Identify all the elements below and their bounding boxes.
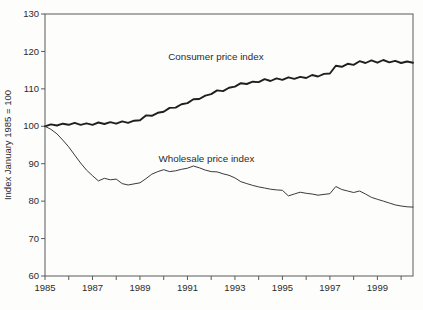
- y-tick-label: 110: [24, 83, 39, 94]
- chart: 6070809010011012013019851987198919911993…: [0, 0, 423, 310]
- x-tick-label: 1989: [129, 282, 150, 293]
- y-tick-label: 80: [28, 195, 39, 206]
- wholesale-price-line: [45, 126, 413, 207]
- y-tick-label: 90: [28, 158, 39, 169]
- y-tick-label: 120: [23, 46, 39, 57]
- x-tick-label: 1991: [177, 282, 198, 293]
- y-tick-label: 60: [28, 270, 39, 281]
- wholesale-label: Wholesale price index: [159, 153, 255, 164]
- y-tick-label: 100: [23, 120, 39, 131]
- x-tick-label: 1985: [34, 282, 55, 293]
- x-tick-label: 1995: [272, 282, 293, 293]
- x-tick-label: 1997: [319, 282, 340, 293]
- consumer-price-line: [45, 60, 413, 126]
- y-tick-label: 70: [28, 233, 39, 244]
- x-tick-label: 1993: [224, 282, 245, 293]
- x-tick-label: 1987: [82, 282, 103, 293]
- consumer-label: Consumer price index: [168, 51, 263, 62]
- x-tick-label: 1999: [367, 282, 388, 293]
- price-index-chart: 6070809010011012013019851987198919911993…: [0, 0, 423, 310]
- y-tick-label: 130: [23, 8, 39, 19]
- y-axis-label: Index January 1985 = 100: [2, 90, 13, 200]
